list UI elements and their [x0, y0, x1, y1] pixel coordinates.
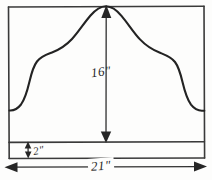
dimensioned-sketch: 16" 2" 21" [0, 0, 212, 180]
base-band-dimension-label: 2" [32, 143, 45, 157]
width-arrowhead-left-icon [5, 162, 18, 172]
band-arrowhead-down-icon [25, 151, 32, 158]
width-arrowhead-right-icon [194, 162, 207, 172]
height-arrowhead-down-icon [101, 132, 111, 144]
frame-left-edge [9, 7, 10, 159]
band-dimension-2in [25, 142, 32, 159]
base-band-divider-line [9, 142, 204, 143]
frame-right-edge [204, 6, 205, 158]
sketch-canvas [0, 0, 212, 180]
profile-curve [10, 6, 205, 111]
width-dimension-label: 21" [87, 157, 114, 175]
height-dimension-label: 16" [90, 63, 112, 81]
